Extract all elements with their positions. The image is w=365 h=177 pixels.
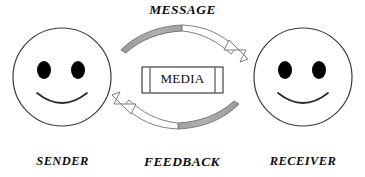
message-label: MESSAGE	[0, 3, 365, 17]
sender-right-eye-icon	[71, 61, 85, 79]
media-label: MEDIA	[150, 72, 215, 85]
receiver-left-eye-icon	[278, 61, 292, 79]
sender-left-eye-icon	[37, 61, 51, 79]
feedback-arrow-tail	[178, 101, 239, 129]
message-arrow	[121, 25, 248, 62]
receiver-face-circle	[254, 28, 352, 126]
receiver-face	[251, 28, 352, 131]
feedback-arrow	[112, 92, 239, 129]
feedback-label: FEEDBACK	[99, 155, 265, 169]
message-arrow-tail	[121, 25, 182, 53]
receiver-right-eye-icon	[312, 61, 326, 79]
diagram-canvas	[0, 0, 365, 177]
sender-face	[10, 28, 111, 131]
receiver-label: RECEIVER	[251, 155, 355, 168]
communication-diagram: MESSAGE FEEDBACK SENDER RECEIVER MEDIA	[0, 0, 365, 177]
sender-label: SENDER	[12, 155, 113, 168]
sender-face-circle	[13, 28, 111, 126]
